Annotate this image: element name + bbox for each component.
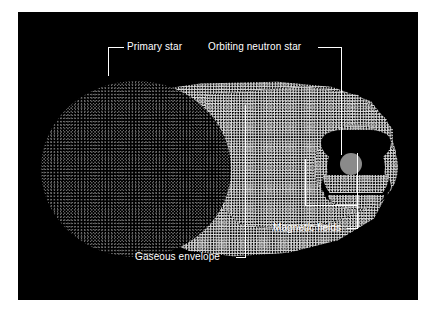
gaseous-envelope-leader-vertical <box>245 105 246 257</box>
neutron-star-leader-horizontal <box>318 47 342 48</box>
diagram-plate: Primary star Orbiting neutron star Gaseo… <box>18 12 418 300</box>
label-orbiting-neutron-star: Orbiting neutron star <box>208 41 301 53</box>
primary-star-leader-horizontal <box>108 47 124 48</box>
magnetic-fields-leader-stem <box>357 205 358 228</box>
label-magnetic-fields: Magnetic fields <box>273 222 341 234</box>
label-primary-star: Primary star <box>127 41 182 53</box>
gaseous-envelope-leader-horizontal <box>236 257 246 258</box>
neutron-star-leader-vertical <box>341 47 342 155</box>
label-gaseous-envelope: Gaseous envelope <box>135 251 220 263</box>
magnetic-fields-leader-horizontal <box>347 228 358 229</box>
magnetic-fields-bracket-right <box>357 153 358 206</box>
primary-star-sphere <box>41 81 231 257</box>
primary-star-leader-vertical <box>108 47 109 76</box>
neutron-star-disk <box>340 153 362 175</box>
magnetic-fields-bracket-left <box>305 159 306 206</box>
magnetic-fields-bracket-bottom <box>305 205 358 206</box>
figure-root: Primary star Orbiting neutron star Gaseo… <box>0 0 435 313</box>
